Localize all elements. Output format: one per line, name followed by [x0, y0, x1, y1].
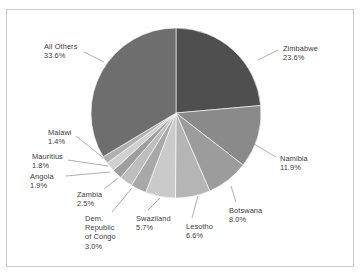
leader-line	[84, 52, 104, 62]
pie-slice-label-name: Mauritius	[32, 152, 63, 161]
pie-slice-label: Dem. Republic of Congo3.0%	[85, 214, 116, 251]
pie-slice-label-name: Malawi	[48, 128, 72, 137]
pie-slice-label-name: Zimbabwe	[283, 44, 318, 53]
pie-slice-label-value: 2.5%	[77, 199, 102, 208]
pie-slice-label: All Others33.6%	[44, 42, 77, 60]
pie-slice-label-name: Namibia	[280, 154, 308, 163]
pie-slice-label-name: Lesotho	[186, 222, 213, 231]
pie-slices-group	[91, 28, 261, 198]
pie-slice-label: Lesotho6.6%	[186, 222, 213, 240]
pie-slice-label-name: Swaziland	[136, 214, 171, 223]
pie-slice[interactable]	[176, 28, 261, 113]
pie-slice-label-value: 6.6%	[186, 231, 213, 240]
pie-slice-label-name: Dem. Republic of Congo	[85, 214, 116, 242]
pie-slice-label: Zimbabwe23.6%	[283, 44, 318, 62]
pie-slice-label-name: Angola	[30, 172, 54, 181]
pie-slice-label-value: 1.4%	[48, 137, 72, 146]
pie-chart-figure: Zimbabwe23.6%Namibia11.9%Botswana8.0%Les…	[0, 0, 361, 278]
leader-line	[112, 188, 132, 212]
leader-line	[66, 172, 110, 176]
pie-slice-label-name: All Others	[44, 42, 77, 51]
leader-line	[148, 198, 160, 210]
pie-slice-label-value: 5.7%	[136, 223, 171, 232]
pie-slice-label: Swaziland5.7%	[136, 214, 171, 232]
pie-slice-label-value: 1.8%	[32, 161, 63, 170]
pie-slice-label-value: 23.6%	[283, 53, 318, 62]
pie-slice-label: Botswana8.0%	[229, 206, 262, 224]
pie-slice-label-value: 3.0%	[85, 242, 116, 251]
pie-slice-label-value: 11.9%	[280, 163, 308, 172]
pie-slice-label: Mauritius1.8%	[32, 152, 63, 170]
pie-slice-label: Angola1.9%	[30, 172, 54, 190]
leader-line	[231, 186, 236, 202]
leader-line	[192, 196, 198, 218]
leader-line	[254, 144, 276, 157]
pie-slice-label-value: 33.6%	[44, 51, 77, 60]
leader-line	[104, 178, 118, 189]
pie-slice-label: Namibia11.9%	[280, 154, 308, 172]
leader-line	[68, 160, 108, 166]
pie-slice-label: Malawi1.4%	[48, 128, 72, 146]
leader-line	[258, 50, 278, 60]
pie-slice-label: Zambia2.5%	[77, 190, 102, 208]
pie-slice-label-name: Botswana	[229, 206, 262, 215]
pie-slice-label-name: Zambia	[77, 190, 102, 199]
pie-slice-label-value: 8.0%	[229, 215, 262, 224]
pie-slice-label-value: 1.9%	[30, 181, 54, 190]
